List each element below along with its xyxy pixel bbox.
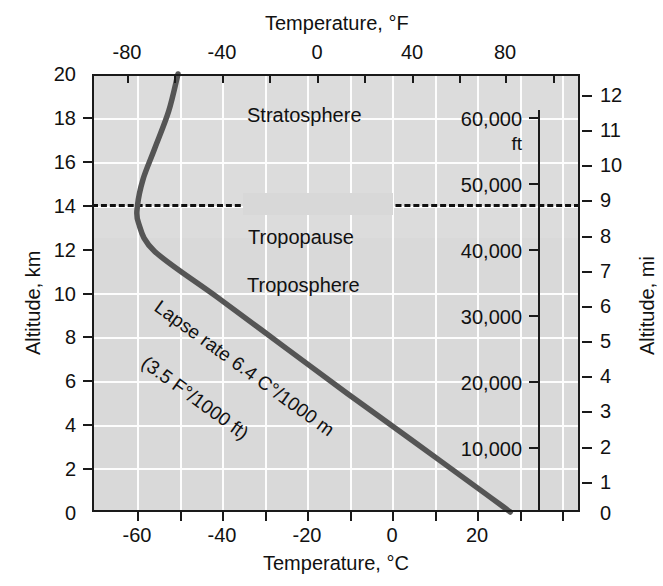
xtick-f <box>553 74 555 83</box>
mi-tick <box>582 236 592 238</box>
xtick-c <box>137 512 139 521</box>
annotation-tropopause: Tropopause <box>248 226 354 249</box>
mi-tick <box>582 95 592 97</box>
km-tick <box>83 424 92 426</box>
xtick-label-c: -60 <box>97 525 177 545</box>
ytick-label-ft: 40,000 <box>412 240 522 263</box>
ytick-label-km: 18 <box>30 108 76 128</box>
xtick-label-c: -40 <box>182 525 262 545</box>
ytick-label-mi: 8 <box>600 226 611 246</box>
xtick-label-f: 0 <box>277 42 357 62</box>
ft-unit-label: ft <box>412 133 522 155</box>
ytick-label-ft: 10,000 <box>412 438 522 461</box>
ytick-label-ft: 60,000 <box>412 108 522 131</box>
feet-tick <box>529 315 538 317</box>
ytick-label-mi: 0 <box>600 503 611 523</box>
mi-tick <box>582 376 592 378</box>
ytick-label-mi: 9 <box>600 190 611 210</box>
mi-tick <box>582 482 592 484</box>
feet-tick <box>529 381 538 383</box>
feet-axis-line <box>538 110 540 512</box>
mi-tick <box>582 130 592 132</box>
ytick-label-km: 4 <box>30 415 76 435</box>
ytick-label-mi: 4 <box>600 366 611 386</box>
top-axis-title: Temperature, °F <box>265 12 409 35</box>
xtick-c <box>520 512 522 521</box>
xtick-c <box>265 512 267 521</box>
feet-tick <box>529 183 538 185</box>
ytick-label-mi: 2 <box>600 437 611 457</box>
left-axis-title: Altitude, km <box>22 251 45 355</box>
xtick-f <box>364 74 366 83</box>
xtick-f <box>127 74 129 83</box>
xtick-f <box>505 74 507 83</box>
xtick-f <box>222 74 224 83</box>
mi-tick <box>582 200 592 202</box>
mi-tick <box>582 411 592 413</box>
xtick-c <box>307 512 309 521</box>
annotation-troposphere: Troposphere <box>247 274 360 297</box>
xtick-label-f: 80 <box>465 42 545 62</box>
feet-tick <box>529 117 538 119</box>
km-tick <box>83 161 92 163</box>
km-tick <box>83 380 92 382</box>
xtick-label-f: -40 <box>182 42 262 62</box>
ytick-label-ft: 50,000 <box>412 174 522 197</box>
mi-tick <box>582 165 592 167</box>
ytick-label-mi: 12 <box>600 85 622 105</box>
km-tick <box>83 293 92 295</box>
gridline-horizontal <box>92 468 580 470</box>
mi-tick <box>582 341 592 343</box>
xtick-label-f: -80 <box>87 42 167 62</box>
ytick-label-mi: 6 <box>600 296 611 316</box>
xtick-c <box>477 512 479 521</box>
ytick-label-ft: 30,000 <box>412 306 522 329</box>
km-tick <box>83 468 92 470</box>
xtick-label-c: 20 <box>437 525 517 545</box>
ytick-label-ft: 20,000 <box>412 372 522 395</box>
atmosphere-temperature-profile-chart: 20 18 16 14 12 10 8 6 4 2 0 12 11 10 9 8… <box>0 0 663 586</box>
ytick-label-km: 14 <box>30 196 76 216</box>
ytick-label-km: 0 <box>30 503 76 523</box>
xtick-c <box>222 512 224 521</box>
xtick-c <box>435 512 437 521</box>
mi-tick <box>582 306 592 308</box>
ytick-label-mi: 5 <box>600 331 611 351</box>
feet-tick <box>529 249 538 251</box>
xtick-c <box>562 512 564 521</box>
xtick-label-f: 40 <box>372 42 452 62</box>
annotation-stratosphere: Stratosphere <box>247 104 362 127</box>
gridline-horizontal <box>92 162 580 164</box>
ytick-label-mi: 10 <box>600 155 622 175</box>
xtick-f <box>317 74 319 83</box>
mi-tick <box>582 271 592 273</box>
gridline-horizontal <box>92 337 580 339</box>
xtick-c <box>392 512 394 521</box>
ytick-label-km: 20 <box>30 64 76 84</box>
ytick-label-mi: 3 <box>600 401 611 421</box>
km-tick <box>83 249 92 251</box>
xtick-f <box>459 74 461 83</box>
ytick-label-mi: 7 <box>600 261 611 281</box>
ytick-label-mi: 1 <box>600 472 611 492</box>
feet-tick <box>529 447 538 449</box>
ytick-label-mi: 11 <box>600 120 621 140</box>
km-tick <box>83 205 92 207</box>
xtick-label-c: -20 <box>267 525 347 545</box>
xtick-f <box>269 74 271 83</box>
km-tick <box>83 117 92 119</box>
ytick-label-km: 16 <box>30 152 76 172</box>
xtick-c <box>180 512 182 521</box>
tropopause-label-mask <box>243 193 393 215</box>
xtick-c <box>350 512 352 521</box>
xtick-f <box>174 74 176 83</box>
xtick-label-c: 0 <box>352 525 432 545</box>
ytick-label-km: 6 <box>30 371 76 391</box>
mi-tick <box>582 447 592 449</box>
bottom-axis-title: Temperature, °C <box>263 552 409 575</box>
xtick-f <box>412 74 414 83</box>
km-tick <box>83 336 92 338</box>
right-axis-title: Altitude, mi <box>636 256 659 355</box>
ytick-label-km: 2 <box>30 459 76 479</box>
